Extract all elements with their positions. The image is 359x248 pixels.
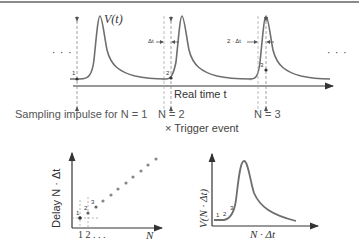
v-point-3: 3	[230, 205, 233, 211]
v-point-1: 1	[216, 212, 219, 218]
sample-point-2	[169, 76, 172, 79]
delta-t-label: Δt	[148, 38, 154, 44]
delay-point-1: 1	[76, 210, 79, 216]
ellipsis-right: · · ·	[327, 47, 348, 58]
sample-label-3: 3	[260, 62, 263, 68]
sampling-label-n2: N = 2	[158, 108, 185, 120]
sampling-label-n3: N = 3	[254, 108, 281, 120]
delay-axis-label: Delay N · Δt	[50, 169, 62, 228]
delay-vs-n-plot	[72, 153, 162, 228]
trigger-legend: × Trigger event	[165, 122, 239, 134]
n-axis-label: N	[146, 229, 153, 241]
ellipsis-left: · · ·	[52, 47, 73, 58]
svg-text:×: ×	[249, 76, 252, 82]
sampling-label-n1: Sampling impulse for N = 1	[15, 108, 147, 120]
sample-label-2: 2	[166, 70, 169, 76]
sampled-signal-plot	[212, 154, 318, 226]
sample-label-1: 1	[72, 70, 75, 76]
sample-point-3	[264, 68, 267, 71]
sample-point-1	[75, 77, 78, 80]
signal-label: V(t)	[104, 12, 123, 27]
svg-text:×: ×	[162, 76, 165, 82]
delay-point-2: 2	[84, 205, 87, 211]
ndt-axis-label: N · Δt	[250, 228, 275, 240]
n-ticks: 1 2 . . .	[78, 229, 106, 240]
delay-point-3: 3	[91, 199, 94, 205]
v-axis-label: V(N · Δt)	[197, 189, 209, 228]
v-point-2: 2	[223, 211, 226, 217]
two-delta-t-label: 2 · Δt	[227, 38, 241, 44]
time-axis-label: Real time t	[174, 88, 227, 100]
